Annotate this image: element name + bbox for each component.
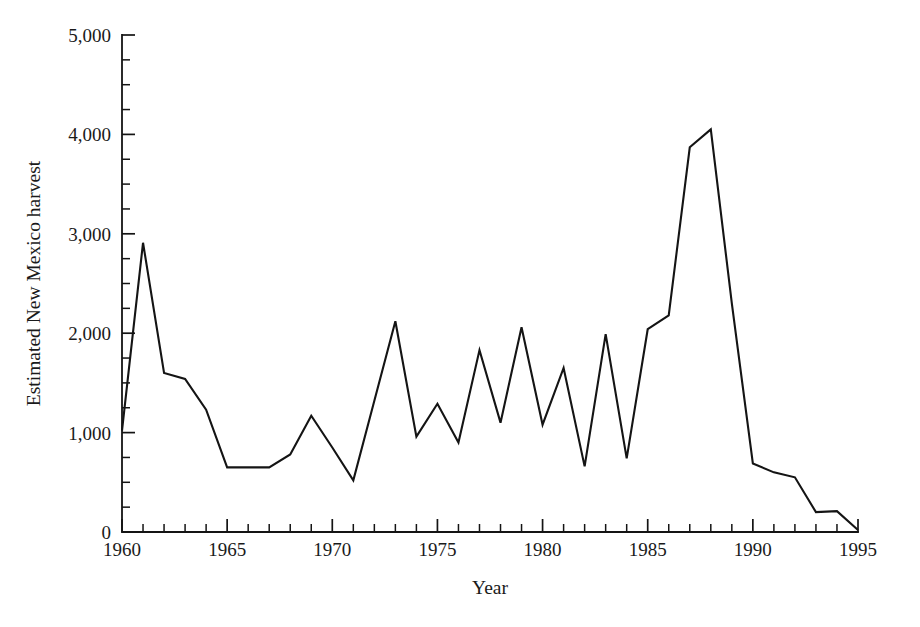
y-tick-label: 2,000 bbox=[68, 323, 111, 344]
x-tick-label: 1970 bbox=[313, 539, 351, 560]
x-tick-label: 1980 bbox=[524, 539, 562, 560]
x-axis-ticks bbox=[122, 519, 858, 532]
x-tick-label: 1965 bbox=[208, 539, 246, 560]
chart-figure: 01,0002,0003,0004,0005,000 1960196519701… bbox=[0, 0, 920, 627]
x-tick-label: 1985 bbox=[629, 539, 667, 560]
x-axis-tick-labels: 19601965197019751980198519901995 bbox=[103, 539, 877, 560]
x-axis-title: Year bbox=[472, 577, 508, 598]
line-chart-canvas: 01,0002,0003,0004,0005,000 1960196519701… bbox=[0, 0, 920, 627]
y-axis-title: Estimated New Mexico harvest bbox=[23, 160, 44, 406]
y-tick-label: 1,000 bbox=[68, 423, 111, 444]
harvest-line-series bbox=[122, 129, 858, 530]
x-tick-label: 1975 bbox=[418, 539, 456, 560]
x-tick-label: 1990 bbox=[734, 539, 772, 560]
y-tick-label: 4,000 bbox=[68, 124, 111, 145]
axis-lines bbox=[122, 35, 858, 532]
y-tick-label: 3,000 bbox=[68, 224, 111, 245]
y-axis-ticks bbox=[122, 35, 135, 532]
y-axis-tick-labels: 01,0002,0003,0004,0005,000 bbox=[68, 25, 111, 543]
x-tick-label: 1960 bbox=[103, 539, 141, 560]
y-tick-label: 5,000 bbox=[68, 25, 111, 46]
x-tick-label: 1995 bbox=[839, 539, 877, 560]
